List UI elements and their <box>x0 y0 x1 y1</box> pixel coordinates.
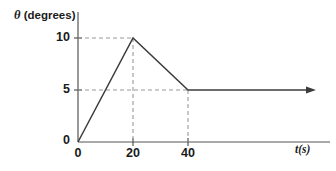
data-line-arrowhead <box>306 86 316 93</box>
theta-symbol: θ <box>14 8 21 22</box>
x-tick-label-40: 40 <box>175 147 201 160</box>
y-tick-label-0: 0 <box>48 134 70 147</box>
y-tick-label-5: 5 <box>48 83 70 96</box>
chart-figure: θ (degrees) t(s) 10 5 0 0 20 40 <box>0 0 336 171</box>
data-line-theta <box>78 38 309 142</box>
y-tick-label-10: 10 <box>48 31 70 44</box>
x-tick-label-0: 0 <box>65 147 91 160</box>
y-axis-units: (degrees) <box>24 9 76 21</box>
x-axis-label: t(s) <box>295 144 310 156</box>
y-axis-label: θ (degrees) <box>14 9 75 22</box>
x-tick-label-20: 20 <box>120 147 146 160</box>
